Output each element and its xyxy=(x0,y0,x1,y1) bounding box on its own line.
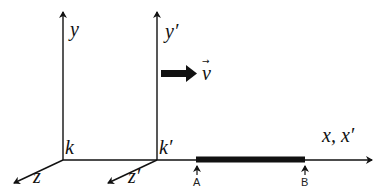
point-a-label: A xyxy=(193,176,201,188)
point-b-label: B xyxy=(301,176,308,188)
rod-ab: A B xyxy=(193,157,308,189)
origin-k-label: k xyxy=(65,136,75,158)
rod xyxy=(196,157,305,163)
frame-k-prime: y′ k′ z′ xyxy=(108,12,179,187)
z-prime-axis-label: z′ xyxy=(127,165,141,187)
vector-arrow-icon: → xyxy=(202,56,210,66)
reference-frames-diagram: y k z y′ k′ z′ v → x, x′ A B xyxy=(0,0,377,189)
shared-x-axis: x, x′ xyxy=(157,124,372,160)
y-prime-axis-label: y′ xyxy=(163,20,179,43)
z-axis-label: z xyxy=(32,165,41,187)
x-axis-label: x, x′ xyxy=(321,124,355,146)
frame-k: y k z xyxy=(14,12,157,187)
y-axis-label: y xyxy=(68,18,79,41)
velocity-arrow: v → xyxy=(161,56,211,84)
origin-k-prime-label: k′ xyxy=(159,136,173,158)
